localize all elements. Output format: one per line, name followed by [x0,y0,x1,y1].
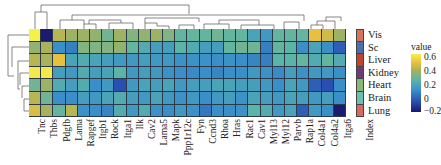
index-annotation-cell [356,105,364,118]
column-label: Cav2 [139,119,151,165]
heatmap-cell [53,67,65,80]
legend-tick: 0.2 [424,80,436,90]
heatmap-cell [139,105,151,118]
column-label: Pdgfb [53,119,65,165]
heatmap-cell [139,54,151,67]
heatmap-cell [41,79,53,92]
heatmap-cell [200,54,212,67]
heatmap-cell [78,29,90,42]
heatmap-cell [285,54,297,67]
heatmap-cell [224,79,236,92]
column-label: Index [356,119,368,165]
column-label: Myl12 [273,119,285,165]
heatmap-cell [127,79,139,92]
heatmap-cell [273,105,285,118]
heatmap-cell [114,54,126,67]
heatmap-cell [66,92,78,105]
heatmap-cell [212,105,224,118]
heatmap-cell [261,42,273,55]
heatmap-cell [175,79,187,92]
heatmap-cell [261,29,273,42]
column-label: Cav1 [249,119,261,165]
column-label: Rapgef [78,119,90,165]
heatmap-cell [78,92,90,105]
heatmap-cell [187,54,199,67]
heatmap-cell [224,105,236,118]
heatmap-cell [29,42,41,55]
heatmap-cell [248,105,260,118]
heatmap-cell [212,67,224,80]
heatmap-cell [261,67,273,80]
index-annotation-cell [356,67,364,80]
heatmap-cell [175,29,187,42]
heatmap-cell [53,79,65,92]
heatmap-cell [102,92,114,105]
heatmap-cell [285,79,297,92]
heatmap-cell [224,67,236,80]
heatmap-cell [309,67,321,80]
heatmap-cell [236,67,248,80]
heatmap-cell [41,92,53,105]
heatmap-cell [309,92,321,105]
heatmap-cell [114,42,126,55]
heatmap-cell [127,105,139,118]
heatmap-cell [200,67,212,80]
column-label: Col4a2 [322,119,334,165]
heatmap-cell [297,79,309,92]
heatmap-cell [114,92,126,105]
heatmap-cell [309,105,321,118]
heatmap-cell [297,42,309,55]
heatmap-cell [273,29,285,42]
column-label: Itgb1 [90,119,102,165]
heatmap-cell [41,29,53,42]
heatmap-cell [322,42,334,55]
heatmap-cell [200,105,212,118]
row-label: Sc [368,42,399,55]
heatmap-cell [285,105,297,118]
heatmap-cell [248,54,260,67]
heatmap-cell [334,79,346,92]
column-label: Fyn [188,119,200,165]
column-label: Col4a1 [310,119,322,165]
heatmap-cell [273,54,285,67]
heatmap-cell [322,67,334,80]
heatmap-cell [66,105,78,118]
heatmap-cell [127,92,139,105]
heatmap-cell [139,92,151,105]
heatmap-cell [200,92,212,105]
heatmap-cell [90,42,102,55]
heatmap-cell [53,29,65,42]
column-label: Itga6 [334,119,346,165]
heatmap-cell [66,29,78,42]
column-label: Rac1 [236,119,248,165]
heatmap-cell [127,67,139,80]
heatmap-cell [151,54,163,67]
heatmap-cell [248,42,260,55]
heatmap-cell [114,29,126,42]
heatmap-cell [41,42,53,55]
heatmap-cell [151,67,163,80]
heatmap-cell [90,67,102,80]
heatmap-cell [322,29,334,42]
heatmap-cell [163,54,175,67]
heatmap-cell [102,79,114,92]
column-label: Ppp1r12c [175,119,187,165]
heatmap-cell [90,54,102,67]
heatmap-cell [248,79,260,92]
heatmap-cell [175,105,187,118]
heatmap-cell [53,92,65,105]
heatmap-cell [200,79,212,92]
heatmap-cell [224,42,236,55]
heatmap-cell [29,79,41,92]
column-label: Tnc [29,119,41,165]
heatmap-grid [29,29,346,117]
row-label: Brain [368,92,399,105]
heatmap-cell [114,105,126,118]
heatmap-cell [273,92,285,105]
heatmap-cell [236,54,248,67]
heatmap-cell [29,105,41,118]
heatmap-cell [297,29,309,42]
heatmap-cell [236,29,248,42]
column-dendrogram [29,0,347,29]
